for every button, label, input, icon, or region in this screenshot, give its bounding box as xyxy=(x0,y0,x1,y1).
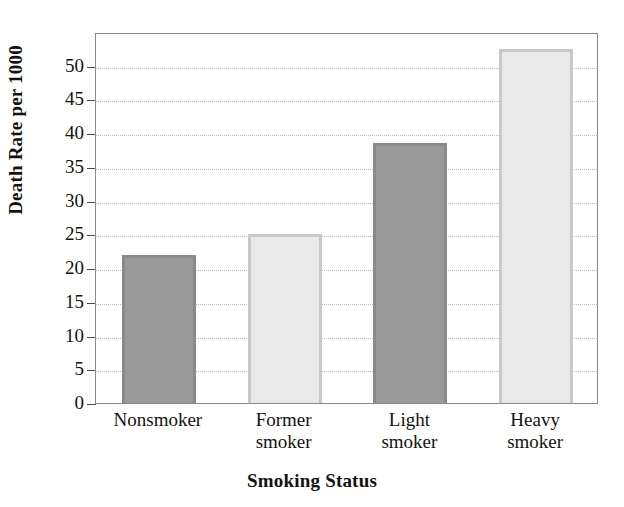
y-axis-title: Death Rate per 1000 xyxy=(4,35,28,225)
x-axis-tick-label-line: smoker xyxy=(221,431,347,453)
x-axis-tick-label-line: Nonsmoker xyxy=(95,409,221,431)
x-axis-tick-label: Formersmoker xyxy=(221,409,347,453)
y-axis-tick-label: 5 xyxy=(40,359,84,378)
y-axis-tick-label: 10 xyxy=(40,326,84,345)
bar xyxy=(373,143,447,403)
x-axis-tick-label-line: Former xyxy=(221,409,347,431)
x-axis-tick-label: Lightsmoker xyxy=(347,409,473,453)
x-axis-title: Smoking Status xyxy=(0,470,624,492)
y-axis-tick-label: 40 xyxy=(40,123,84,142)
y-axis-tick-label: 25 xyxy=(40,224,84,243)
y-axis-tick-label: 20 xyxy=(40,258,84,277)
y-axis-tick-label: 0 xyxy=(40,393,84,412)
bar xyxy=(122,255,196,403)
y-axis-tick-label: 50 xyxy=(40,56,84,75)
x-axis-tick-label: Heavysmoker xyxy=(472,409,598,453)
y-axis-tick-label: 35 xyxy=(40,157,84,176)
x-axis-tick-label-line: smoker xyxy=(472,431,598,453)
x-axis-tick-label: Nonsmoker xyxy=(95,409,221,431)
bar xyxy=(248,234,322,403)
y-axis-tick-label: 15 xyxy=(40,292,84,311)
x-axis-tick-label-line: Heavy xyxy=(472,409,598,431)
y-axis-tick-label: 30 xyxy=(40,191,84,210)
bar-chart-figure: Death Rate per 1000 05101520253035404550… xyxy=(0,0,624,507)
bar xyxy=(499,49,573,403)
plot-inner xyxy=(96,34,597,403)
plot-area xyxy=(95,33,598,404)
y-axis-tick-label: 45 xyxy=(40,89,84,108)
x-axis-tick-label-line: Light xyxy=(347,409,473,431)
x-axis-tick-label-line: smoker xyxy=(347,431,473,453)
y-axis-tick xyxy=(87,404,96,405)
